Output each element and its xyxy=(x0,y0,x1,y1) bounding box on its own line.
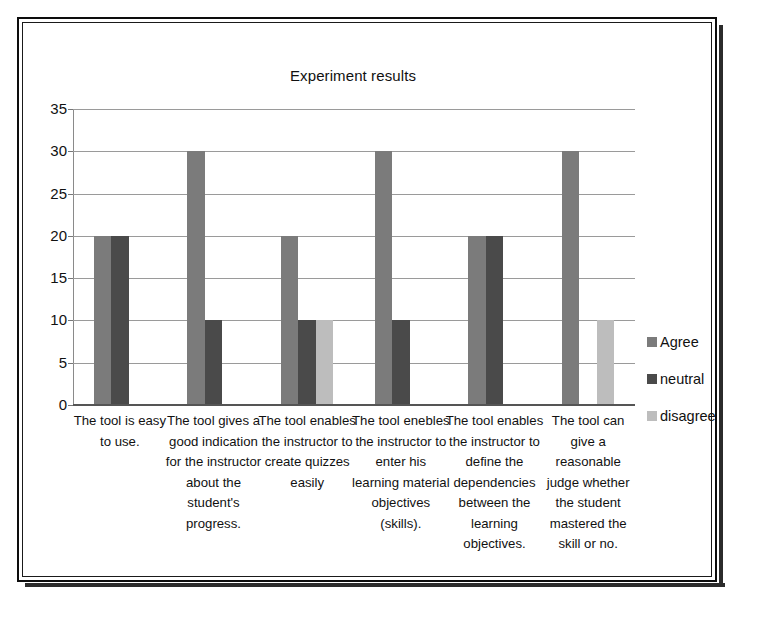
legend-swatch-disagree-icon xyxy=(647,411,657,421)
chart-title: Experiment results xyxy=(23,67,683,84)
x-axis-category-labels: The tool is easy to use.The tool gives a… xyxy=(73,411,635,576)
figure-frame-shadow-right xyxy=(719,25,723,587)
bar-agree-cat2 xyxy=(187,151,205,405)
bar-neutral-cat4 xyxy=(392,320,410,405)
bar-agree-cat1 xyxy=(94,236,112,405)
y-axis-tick-20: 20 xyxy=(33,227,67,244)
y-axis-tick-5: 5 xyxy=(33,354,67,371)
bar-disagree-cat3 xyxy=(316,320,334,405)
category-label-1: The tool is easy to use. xyxy=(70,411,170,452)
y-axis-tick-35: 35 xyxy=(33,100,67,117)
legend-label: Agree xyxy=(660,334,699,350)
category-label-3: The tool enables the instructor to creat… xyxy=(257,411,357,493)
category-label-4: The tool enebles the instructor to enter… xyxy=(351,411,451,534)
chart-legend: Agreeneutraldisagree xyxy=(647,323,717,434)
y-axis-tick-labels: 35302520151050 xyxy=(31,109,67,405)
y-axis-tick-25: 25 xyxy=(33,185,67,202)
y-axis-tick-30: 30 xyxy=(33,142,67,159)
y-axis-tick-10: 10 xyxy=(33,311,67,328)
bar-agree-cat6 xyxy=(562,151,580,405)
bar-agree-cat3 xyxy=(281,236,299,405)
legend-item-neutral[interactable]: neutral xyxy=(647,360,717,397)
legend-label: neutral xyxy=(660,371,704,387)
figure-frame-inner-border: Experiment results 35302520151050 The to… xyxy=(22,22,712,577)
bar-agree-cat5 xyxy=(468,236,486,405)
figure-frame: Experiment results 35302520151050 The to… xyxy=(17,17,717,582)
bar-agree-cat4 xyxy=(375,151,393,405)
category-label-5: The tool enables the instructor to defin… xyxy=(445,411,545,555)
figure-frame-shadow-bottom xyxy=(25,583,725,587)
legend-swatch-neutral-icon xyxy=(647,374,657,384)
x-axis-line xyxy=(73,404,635,406)
bar-chart: Experiment results 35302520151050 The to… xyxy=(23,23,717,582)
bar-neutral-cat3 xyxy=(298,320,316,405)
bar-disagree-cat6 xyxy=(597,320,615,405)
bar-neutral-cat2 xyxy=(205,320,223,405)
legend-label: disagree xyxy=(660,408,716,424)
plot-area xyxy=(73,109,635,405)
legend-item-disagree[interactable]: disagree xyxy=(647,397,717,434)
category-label-2: The tool gives a good indication for the… xyxy=(164,411,264,534)
legend-item-agree[interactable]: Agree xyxy=(647,323,717,360)
category-label-6: The tool can give a reasonable judge whe… xyxy=(538,411,638,555)
bar-neutral-cat1 xyxy=(111,236,129,405)
y-axis-tick-0: 0 xyxy=(33,396,67,413)
bars-layer xyxy=(73,109,635,405)
legend-swatch-agree-icon xyxy=(647,337,657,347)
y-axis-tick-15: 15 xyxy=(33,269,67,286)
bar-neutral-cat5 xyxy=(486,236,504,405)
